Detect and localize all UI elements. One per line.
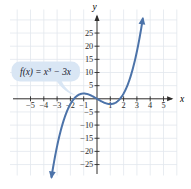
y-tick-label: 15: [85, 55, 93, 64]
x-axis-label: x: [179, 94, 185, 104]
x-tick-label: 1: [108, 101, 112, 110]
function-label-callout: f(x) = x3 − 3x: [12, 62, 81, 96]
x-axis-tick-labels: −5−4−3−2−112345: [26, 101, 165, 110]
y-tick-label: −5: [84, 108, 93, 117]
graph-figure: −5−4−3−2−112345 252015105−5−10−15−20−25 …: [0, 0, 191, 189]
graph-canvas: −5−4−3−2−112345 252015105−5−10−15−20−25 …: [0, 0, 191, 189]
y-tick-label: −20: [80, 147, 93, 156]
x-tick-label: 5: [161, 101, 165, 110]
x-tick-label: 4: [148, 101, 153, 110]
x-tick-label: 3: [135, 101, 139, 110]
y-tick-label: −15: [80, 134, 93, 143]
x-tick-label: −3: [53, 101, 62, 110]
y-tick-label: 20: [85, 42, 93, 51]
x-tick-label: −4: [39, 101, 49, 110]
y-tick-label: 5: [89, 81, 93, 90]
x-tick-label: −5: [26, 101, 35, 110]
y-tick-label: −25: [80, 160, 93, 169]
grid-lines: [10, 10, 177, 176]
y-tick-label: 10: [85, 68, 93, 77]
callout-tail: [57, 81, 77, 96]
x-tick-label: 2: [122, 101, 126, 110]
y-axis-label: y: [91, 2, 97, 12]
function-label-text: f(x) = x3 − 3x: [20, 66, 72, 78]
y-tick-label: −10: [80, 121, 93, 130]
y-tick-label: 25: [85, 29, 93, 38]
